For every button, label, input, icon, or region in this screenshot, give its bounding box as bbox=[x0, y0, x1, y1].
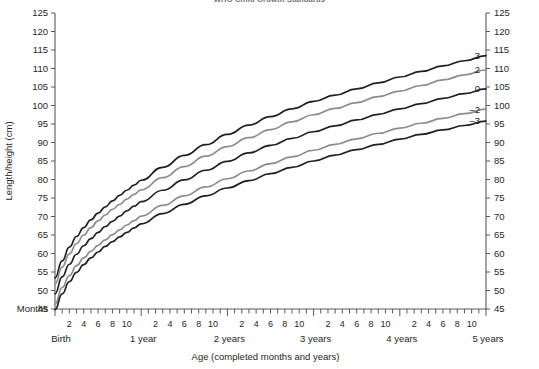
x-month-label: 2 bbox=[239, 319, 244, 329]
growth-chart: WHO Child Growth Standards 4545505055556… bbox=[0, 0, 539, 369]
x-month-label: 2 bbox=[153, 319, 158, 329]
sd-curve-label-minus2: –2 bbox=[469, 104, 480, 115]
x-month-label: 4 bbox=[254, 319, 259, 329]
x-month-label: 8 bbox=[110, 319, 115, 329]
x-month-label: 4 bbox=[81, 319, 86, 329]
sd-curve-label-3: 3 bbox=[475, 50, 480, 61]
y-tick-label-right: 75 bbox=[494, 192, 505, 203]
y-tick-label-right: 120 bbox=[494, 26, 510, 37]
x-month-label: 8 bbox=[455, 319, 460, 329]
x-year-label: 5 years bbox=[472, 333, 503, 344]
x-year-label: 1 year bbox=[130, 333, 156, 344]
y-tick-label-right: 85 bbox=[494, 155, 505, 166]
y-tick-label-left: 105 bbox=[32, 81, 48, 92]
y-tick-label-right: 125 bbox=[494, 7, 510, 18]
axis-spines bbox=[55, 13, 486, 309]
y-tick-label-left: 100 bbox=[32, 100, 48, 111]
y-tick-label-left: 75 bbox=[37, 192, 48, 203]
sd-curve-label-0: 0 bbox=[475, 83, 480, 94]
y-tick-label-right: 50 bbox=[494, 285, 505, 296]
y-tick-label-right: 70 bbox=[494, 211, 505, 222]
x-month-label: 6 bbox=[182, 319, 187, 329]
y-tick-label-right: 65 bbox=[494, 229, 505, 240]
y-tick-label-left: 65 bbox=[37, 229, 48, 240]
y-tick-label-right: 105 bbox=[494, 81, 510, 92]
x-year-label: Birth bbox=[51, 333, 71, 344]
y-tick-label-right: 55 bbox=[494, 266, 505, 277]
x-month-label: 6 bbox=[354, 319, 359, 329]
x-year-label: 3 years bbox=[300, 333, 331, 344]
sd-curve-label-minus3: –3 bbox=[469, 115, 480, 126]
y-tick-label-left: 70 bbox=[37, 211, 48, 222]
y-tick-label-right: 110 bbox=[494, 63, 509, 74]
x-month-label: 10 bbox=[208, 319, 218, 329]
x-month-label: 2 bbox=[325, 319, 330, 329]
x-month-label: 6 bbox=[96, 319, 101, 329]
y-tick-label-right: 45 bbox=[494, 303, 505, 314]
x-month-label: 2 bbox=[412, 319, 417, 329]
y-tick-label-right: 95 bbox=[494, 118, 505, 129]
x-month-label: 4 bbox=[426, 319, 431, 329]
y-axis-title: Length/height (cm) bbox=[3, 121, 14, 200]
x-month-label: 8 bbox=[369, 319, 374, 329]
x-axis-title: Age (completed months and years) bbox=[192, 351, 340, 362]
x-month-label: 4 bbox=[340, 319, 345, 329]
x-month-label: 6 bbox=[268, 319, 273, 329]
y-tick-label-right: 90 bbox=[494, 137, 505, 148]
y-tick-label-left: 120 bbox=[32, 26, 48, 37]
x-month-label: 2 bbox=[67, 319, 72, 329]
x-month-label: 10 bbox=[467, 319, 477, 329]
y-tick-label-left: 55 bbox=[37, 266, 48, 277]
sd-curve-2 bbox=[55, 70, 486, 284]
sd-curve-0 bbox=[55, 89, 486, 294]
sd-curve-label-2: 2 bbox=[475, 64, 480, 75]
sd-curve-minus2 bbox=[55, 109, 486, 304]
chart-plot-area: 4545505055556060656570707575808085859090… bbox=[0, 0, 539, 369]
y-tick-label-right: 100 bbox=[494, 100, 510, 111]
x-month-label: 4 bbox=[167, 319, 172, 329]
y-tick-label-left: 60 bbox=[37, 248, 48, 259]
x-month-label: 10 bbox=[122, 319, 132, 329]
y-tick-label-right: 115 bbox=[494, 44, 509, 55]
y-tick-label-left: 110 bbox=[33, 63, 48, 74]
y-tick-label-left: 90 bbox=[37, 137, 48, 148]
y-tick-label-left: 50 bbox=[37, 285, 48, 296]
y-tick-label-right: 80 bbox=[494, 174, 505, 185]
x-month-label: 8 bbox=[282, 319, 287, 329]
y-tick-label-left: 115 bbox=[33, 44, 48, 55]
y-tick-label-left: 125 bbox=[32, 7, 48, 18]
y-tick-label-left: 85 bbox=[37, 155, 48, 166]
x-month-label: 10 bbox=[380, 319, 390, 329]
x-year-label: 2 years bbox=[214, 333, 245, 344]
x-month-label: 6 bbox=[440, 319, 445, 329]
x-month-label: 8 bbox=[196, 319, 201, 329]
x-month-label: 10 bbox=[294, 319, 304, 329]
y-tick-label-left: 80 bbox=[37, 174, 48, 185]
months-axis-label: Months bbox=[17, 303, 48, 314]
y-tick-label-right: 60 bbox=[494, 248, 505, 259]
y-tick-label-left: 95 bbox=[37, 118, 48, 129]
sd-curve-3 bbox=[55, 56, 486, 278]
x-year-label: 4 years bbox=[386, 333, 417, 344]
